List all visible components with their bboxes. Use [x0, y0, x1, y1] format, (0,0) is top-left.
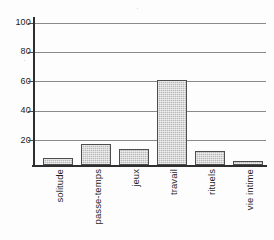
bar-chart: 100 80 60 40 20 — [0, 0, 274, 240]
ytick-wrap-40: 40 — [0, 106, 31, 116]
bar-slot-3 — [157, 18, 187, 165]
xlabel-slot-2: jeux — [119, 167, 149, 240]
xlabel-vie-intime: vie intime — [244, 169, 255, 210]
ytick-wrap-100: 100 — [0, 18, 31, 28]
bar-rituels — [195, 151, 225, 165]
bar-slot-0 — [43, 18, 73, 165]
bars-layer — [33, 18, 266, 165]
bar-slot-4 — [195, 18, 225, 165]
xlabel-slot-4: rituels — [195, 167, 225, 240]
xlabel-slot-1: passe-temps — [81, 167, 111, 240]
xlabel-slot-0: solitude — [43, 167, 73, 240]
bar-jeux — [119, 149, 149, 165]
xlabel-travail: travail — [168, 169, 179, 195]
bar-slot-5 — [233, 18, 263, 165]
xlabel-jeux: jeux — [130, 169, 141, 187]
bar-passe-temps — [81, 144, 111, 165]
bar-travail — [157, 80, 187, 166]
xlabel-solitude: solitude — [54, 169, 65, 203]
xlabel-slot-5: vie intime — [233, 167, 263, 240]
ytick-wrap-20: 20 — [0, 136, 31, 146]
ytick-wrap-80: 80 — [0, 47, 31, 57]
scan-speckle — [137, 8, 138, 9]
bar-vie-intime — [233, 161, 263, 165]
bar-solitude — [43, 158, 73, 165]
scan-speckle — [24, 60, 25, 61]
ytick-wrap-60: 60 — [0, 77, 31, 87]
xlabel-passe-temps: passe-temps — [92, 169, 103, 224]
xlabel-rituels: rituels — [206, 169, 217, 195]
bar-slot-1 — [81, 18, 111, 165]
xlabel-slot-3: travail — [157, 167, 187, 240]
bar-slot-2 — [119, 18, 149, 165]
xlabels-layer: solitude passe-temps jeux travail rituel… — [33, 167, 266, 240]
scan-speckle — [170, 106, 171, 107]
